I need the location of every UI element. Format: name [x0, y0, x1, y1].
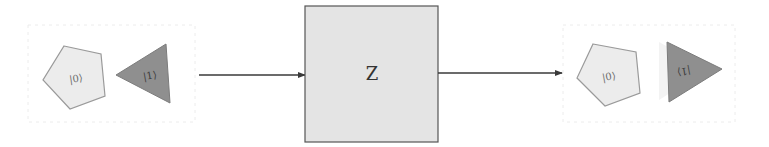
gate-label: Z	[366, 63, 379, 84]
output-triangle-one: |1⟩	[667, 42, 722, 102]
output-state-panel: |0⟩ |1⟩	[563, 25, 735, 122]
output-pentagon-zero: |0⟩	[577, 44, 640, 106]
input-pentagon-zero: |0⟩	[43, 46, 105, 109]
triangle-shape	[667, 42, 722, 102]
input-triangle-one: |1⟩	[116, 44, 170, 103]
z-gate-diagram: |0⟩ |1⟩ Z |0⟩ |1⟩	[0, 0, 769, 147]
input-state-panel: |0⟩ |1⟩	[28, 25, 195, 122]
z-gate-box: Z	[305, 6, 438, 142]
